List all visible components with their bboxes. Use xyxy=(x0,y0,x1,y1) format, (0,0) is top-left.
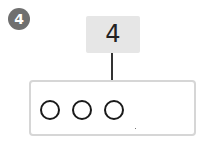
circle-2 xyxy=(72,100,92,120)
circle-1 xyxy=(40,100,60,120)
target-number-box: 4 xyxy=(86,16,140,53)
connector-line xyxy=(111,53,113,80)
problem-number-badge: 4 xyxy=(8,8,30,30)
stray-mark xyxy=(135,128,136,129)
circle-3 xyxy=(104,100,124,120)
answer-tray[interactable] xyxy=(29,80,196,136)
